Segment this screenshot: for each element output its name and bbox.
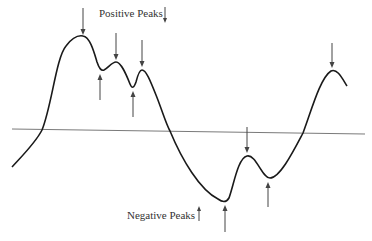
zero-baseline (12, 129, 365, 134)
down-arrow-icon (330, 62, 335, 68)
signal-curve (12, 36, 347, 202)
legend-positive-peaks: Positive Peaks (99, 7, 167, 23)
up-arrow-icon (131, 91, 136, 97)
negative-peaks-label: Negative Peaks (127, 209, 195, 221)
up-arrow-icon (266, 182, 271, 188)
up-arrow-icon (223, 205, 228, 211)
peaks-diagram: Positive Peaks Negative Peaks (0, 0, 372, 241)
positive-peaks-label: Positive Peaks (99, 7, 163, 19)
down-arrow-icon (140, 61, 145, 67)
down-arrow-icon (81, 29, 86, 35)
positive-peak-markers (81, 8, 335, 153)
down-arrow-icon (245, 147, 250, 153)
up-arrow-icon (197, 206, 201, 211)
down-arrow-icon (163, 18, 167, 23)
legend-negative-peaks: Negative Peaks (127, 206, 201, 221)
down-arrow-icon (114, 54, 119, 60)
up-arrow-icon (98, 74, 103, 80)
